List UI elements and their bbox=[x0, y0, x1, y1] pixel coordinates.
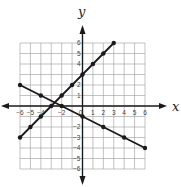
data-point bbox=[39, 93, 43, 97]
data-point bbox=[101, 51, 105, 55]
y-tick-label: 5 bbox=[77, 50, 81, 57]
coordinate-graph: −6−5−4−2012345665421−2−3−4−5−6 x y bbox=[0, 0, 181, 187]
y-tick-label: 4 bbox=[77, 60, 81, 67]
arrow-right-icon bbox=[159, 103, 167, 109]
x-tick-label: 4 bbox=[122, 109, 126, 116]
data-point bbox=[59, 104, 63, 108]
data-point bbox=[49, 104, 53, 108]
data-point bbox=[112, 41, 116, 45]
x-tick-label: −5 bbox=[27, 109, 35, 116]
x-axis-label: x bbox=[172, 99, 180, 114]
data-point bbox=[80, 72, 84, 76]
x-tick-label: 1 bbox=[91, 109, 95, 116]
x-tick-label: −6 bbox=[16, 109, 24, 116]
y-axis-label: y bbox=[77, 4, 86, 19]
data-point bbox=[39, 114, 43, 118]
data-point bbox=[122, 135, 126, 139]
y-tick-label: −2 bbox=[73, 123, 81, 130]
x-tick-label: 5 bbox=[133, 109, 137, 116]
data-point bbox=[59, 93, 63, 97]
y-tick-label: −5 bbox=[73, 155, 81, 162]
arrow-up-icon bbox=[80, 25, 86, 34]
x-tick-label: −2 bbox=[58, 109, 66, 116]
arrow-down-icon bbox=[80, 176, 86, 185]
y-tick-label: 6 bbox=[77, 39, 81, 46]
data-point bbox=[101, 125, 105, 129]
x-tick-label: 6 bbox=[143, 109, 147, 116]
arrow-left-icon bbox=[1, 103, 9, 109]
data-point bbox=[18, 83, 22, 87]
data-point bbox=[143, 146, 147, 150]
data-point bbox=[28, 125, 32, 129]
data-point bbox=[70, 83, 74, 87]
y-tick-label: −4 bbox=[73, 144, 81, 151]
y-tick-label: 1 bbox=[77, 92, 81, 99]
y-tick-label: −3 bbox=[73, 134, 81, 141]
x-tick-label: 2 bbox=[102, 109, 106, 116]
data-point bbox=[80, 114, 84, 118]
data-point bbox=[18, 135, 22, 139]
line-1 bbox=[18, 41, 116, 140]
y-tick-label: −6 bbox=[73, 165, 81, 172]
x-tick-label: 3 bbox=[112, 109, 116, 116]
data-point bbox=[91, 62, 95, 66]
axes bbox=[1, 25, 167, 185]
y-tick-label: 2 bbox=[77, 81, 81, 88]
series-line bbox=[20, 43, 114, 138]
